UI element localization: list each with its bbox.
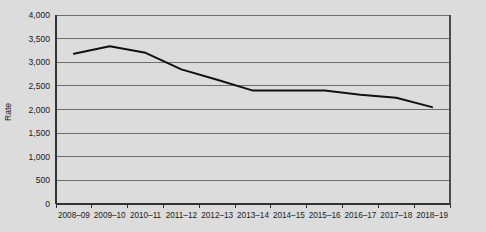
line-chart-canvas: 05001,0001,5002,0002,5003,0003,5004,000 …	[0, 0, 486, 232]
y-axis-title: Rate	[3, 103, 13, 121]
chart-figure: 05001,0001,5002,0002,5003,0003,5004,000 …	[0, 0, 486, 232]
plot-background	[0, 0, 486, 232]
y-tick-label-4000: 4,000	[28, 10, 50, 20]
y-tick-label-3000: 3,000	[28, 57, 50, 67]
x-tick-label-5: 2013–14	[237, 211, 269, 220]
x-tick-label-7: 2015–16	[309, 211, 341, 220]
x-tick-label-8: 2016–17	[345, 211, 377, 220]
y-tick-label-1500: 1,500	[28, 128, 50, 138]
y-tick-label-500: 500	[36, 175, 51, 185]
x-tick-label-2: 2010–11	[130, 211, 162, 220]
y-tick-label-2500: 2,500	[28, 81, 50, 91]
x-tick-label-3: 2011–12	[166, 211, 198, 220]
x-tick-label-9: 2017–18	[380, 211, 412, 220]
x-axis-tick-labels: 2008–092009–102010–112011–122012–132013–…	[58, 211, 449, 220]
x-tick-label-10: 2018–19	[416, 211, 448, 220]
x-tick-label-0: 2008–09	[58, 211, 90, 220]
y-tick-label-3500: 3,500	[28, 34, 50, 44]
y-tick-label-0: 0	[45, 199, 50, 209]
x-tick-label-1: 2009–10	[94, 211, 126, 220]
x-tick-label-6: 2014–15	[273, 211, 305, 220]
y-tick-label-2000: 2,000	[28, 105, 50, 115]
y-axis-title-group: Rate	[3, 103, 13, 121]
x-tick-label-4: 2012–13	[201, 211, 233, 220]
y-tick-label-1000: 1,000	[28, 152, 50, 162]
